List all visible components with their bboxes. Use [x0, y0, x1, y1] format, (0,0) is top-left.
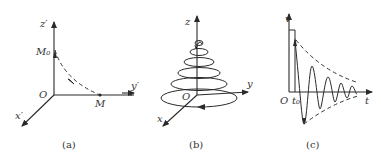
panel-b: z O x y (b) — [122, 16, 253, 150]
x-prime-axis — [22, 95, 54, 126]
m-label: M — [94, 98, 106, 109]
upper-envelope — [296, 40, 356, 82]
spiral-curve — [161, 41, 237, 108]
diagram-canvas: z′ M₀ O M x′ y′ (a) z O x y (b) — [0, 0, 381, 160]
direction-arrow-icon — [68, 79, 74, 84]
figure: z′ M₀ O M x′ y′ (a) z O x y (b) — [0, 0, 381, 160]
origin-label: O — [280, 95, 288, 106]
pulse — [289, 30, 295, 92]
caption-b: (b) — [189, 139, 203, 150]
y-label: y — [246, 78, 253, 89]
x-axis — [163, 95, 197, 126]
damped-oscillation — [295, 40, 357, 124]
trajectory-curve — [55, 50, 100, 95]
caption-a: (a) — [62, 139, 76, 150]
t-label: t — [365, 95, 370, 106]
pulse-arrow-icon — [293, 38, 297, 46]
origin-label: O — [182, 91, 190, 102]
m0-label: M₀ — [35, 46, 50, 57]
y-axis — [197, 92, 248, 95]
caption-c: (c) — [306, 139, 320, 150]
lower-envelope — [304, 96, 358, 124]
origin-label: O — [39, 89, 47, 100]
y-prime-label: y′ — [130, 80, 140, 91]
spiral-arrow-icon — [197, 104, 205, 110]
x-label: x — [157, 113, 163, 124]
t0-label: t₀ — [292, 95, 300, 106]
v-label: v — [285, 13, 291, 24]
x-prime-label: x′ — [15, 110, 24, 121]
z-label: z — [184, 16, 191, 27]
point-m — [98, 93, 101, 96]
z-prime-label: z′ — [39, 18, 48, 29]
panel-c: v O t₀ t (c) — [280, 13, 372, 150]
panel-a: z′ M₀ O M x′ y′ (a) — [15, 18, 140, 150]
